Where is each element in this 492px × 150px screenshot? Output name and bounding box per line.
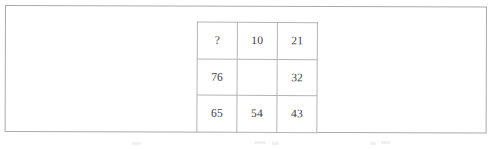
scan-artifact	[254, 141, 266, 144]
scan-artifact	[272, 142, 279, 145]
grid-cell-r3c3[interactable]: 43	[277, 96, 317, 133]
grid-cell-r3c2[interactable]: 54	[237, 95, 277, 132]
scanned-page-frame: ? 10 21 76 32 65 54 43	[5, 5, 487, 134]
grid-cell-r3c1[interactable]: 65	[197, 95, 237, 132]
scan-artifact	[370, 142, 376, 145]
grid-cell-r2c1[interactable]: 76	[197, 59, 237, 96]
grid-cell-r1c3[interactable]: 21	[277, 23, 317, 60]
grid-cell-r1c1[interactable]: ?	[197, 22, 237, 59]
table-row: 65 54 43	[197, 95, 317, 132]
table-row: ? 10 21	[197, 22, 317, 59]
scan-artifact	[132, 142, 141, 145]
grid-cell-r2c2-empty[interactable]	[237, 59, 277, 96]
grid-cell-r2c3[interactable]: 32	[277, 59, 317, 96]
grid-cell-r1c2[interactable]: 10	[237, 22, 277, 59]
scan-artifact	[381, 141, 390, 144]
table-row: 76 32	[197, 59, 317, 96]
number-puzzle-grid: ? 10 21 76 32 65 54 43	[196, 22, 318, 133]
